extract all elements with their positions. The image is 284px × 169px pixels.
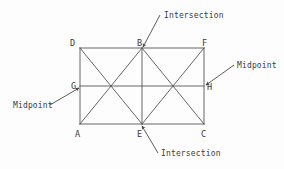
vertex-label-D: D — [70, 38, 75, 48]
leader-line-intersection-bottom — [142, 126, 158, 153]
vertex-label-G: G — [71, 81, 76, 91]
annotation-label-intersection-top: Intersection — [164, 11, 224, 20]
vertex-label-C: C — [201, 129, 206, 139]
vertex-label-E: E — [137, 129, 142, 139]
leader-line-intersection-top — [143, 15, 160, 47]
annotation-label-midpoint-left: Midpoint — [13, 101, 53, 110]
geometry-diagram: DBFGHAEC IntersectionMidpointMidpointInt… — [0, 0, 284, 169]
vertex-label-A: A — [75, 129, 80, 139]
annotation-label-midpoint-right: Midpoint — [237, 61, 277, 70]
annotation-label-intersection-bottom: Intersection — [161, 149, 221, 158]
vertex-label-F: F — [202, 38, 207, 48]
vertex-label-H: H — [207, 82, 212, 92]
diagram-canvas: DBFGHAEC IntersectionMidpointMidpointInt… — [0, 0, 284, 169]
annotation-labels: IntersectionMidpointMidpointIntersection — [13, 11, 277, 158]
rectangle-segments — [80, 48, 204, 124]
vertex-label-B: B — [137, 38, 142, 48]
